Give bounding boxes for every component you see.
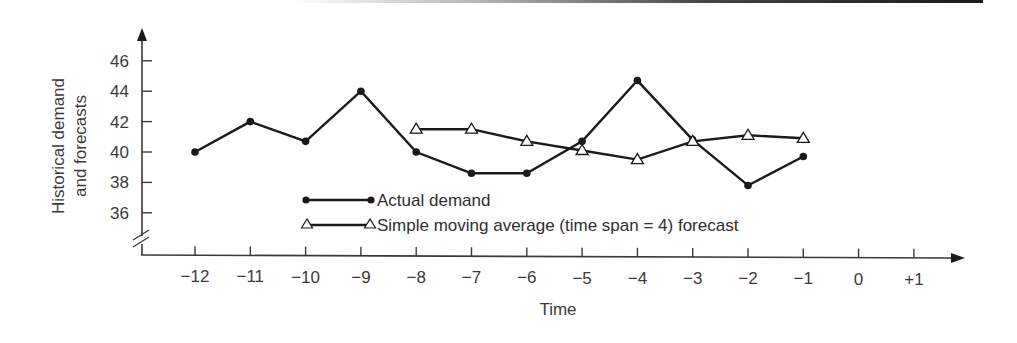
legend-label-actual: Actual demand: [377, 191, 490, 210]
y-tick-label: 42: [110, 113, 129, 132]
x-tick-label: +1: [904, 270, 923, 289]
x-tick-label: −10: [291, 268, 320, 287]
x-tick-label: −11: [237, 267, 265, 286]
x-tick-label: −9: [351, 268, 370, 287]
y-axis-arrow-icon: [137, 28, 147, 41]
y-axis-title-line1: Historical demand: [49, 78, 68, 214]
data-point-circle-icon: [412, 148, 420, 156]
top-rule: [290, 0, 983, 3]
y-tick-label: 36: [110, 204, 129, 223]
x-axis: −12−11−10−9−8−7−6−5−4−3−2−10+1: [141, 246, 965, 289]
data-point-triangle-icon: [742, 129, 754, 139]
series-line: [195, 81, 803, 186]
open-triangle-marker-icon: [365, 219, 376, 228]
x-tick-label: −5: [572, 269, 591, 288]
y-ticks: 464442403836: [110, 52, 152, 223]
series-layer: [191, 77, 809, 189]
data-point-circle-icon: [634, 77, 642, 85]
demand-forecast-chart: 464442403836 Historical demand and forec…: [0, 0, 1017, 343]
x-ticks: −12−11−10−9−8−7−6−5−4−3−2−10+1: [181, 246, 924, 289]
x-tick-label: −7: [462, 268, 481, 287]
x-tick-label: −2: [738, 269, 757, 288]
legend-item-forecast: Simple moving average (time span = 4) fo…: [302, 216, 739, 235]
legend-label-forecast: Simple moving average (time span = 4) fo…: [377, 216, 739, 235]
x-tick-label: −12: [181, 267, 210, 286]
open-triangle-marker-icon: [302, 219, 313, 228]
series-moving-average-forecast: [410, 123, 809, 163]
data-point-circle-icon: [357, 87, 365, 95]
y-tick-label: 40: [110, 143, 129, 162]
data-point-circle-icon: [191, 148, 199, 156]
y-axis-title: Historical demand and forecasts: [49, 78, 90, 214]
data-point-circle-icon: [523, 169, 531, 177]
y-tick-label: 38: [110, 173, 129, 192]
x-tick-label: 0: [854, 270, 863, 289]
legend-item-actual: Actual demand: [302, 191, 490, 210]
x-axis-arrow-icon: [951, 253, 965, 263]
x-tick-label: −3: [683, 269, 702, 288]
y-axis-title-line2: and forecasts: [71, 95, 90, 197]
axis-break-icon: [133, 230, 149, 247]
y-axis: 464442403836: [110, 28, 152, 255]
data-point-circle-icon: [302, 138, 310, 146]
x-tick-label: −6: [517, 268, 536, 287]
legend: Actual demand Simple moving average (tim…: [302, 191, 739, 235]
x-axis-title: Time: [539, 300, 576, 319]
data-point-circle-icon: [468, 169, 476, 177]
data-point-circle-icon: [800, 153, 808, 161]
x-tick-label: −8: [407, 268, 426, 287]
y-tick-label: 44: [110, 82, 129, 101]
x-tick-label: −1: [794, 269, 813, 288]
data-point-circle-icon: [744, 182, 752, 190]
series-actual-demand: [191, 77, 807, 189]
y-tick-label: 46: [110, 52, 129, 71]
x-tick-label: −4: [628, 269, 647, 288]
data-point-circle-icon: [247, 118, 255, 126]
filled-circle-marker-icon: [367, 196, 374, 203]
filled-circle-marker-icon: [302, 196, 309, 203]
